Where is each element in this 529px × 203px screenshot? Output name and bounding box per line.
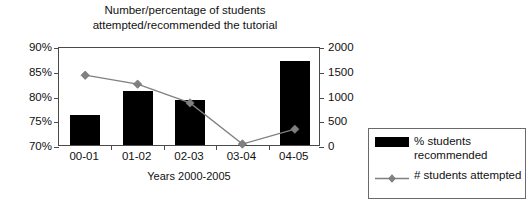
line-marker-04-05 — [291, 125, 299, 133]
chart-legend: % students recommended # students attemp… — [368, 128, 526, 199]
y-axis-left-tick-label: 85% — [6, 66, 52, 78]
legend-line-label: # students attempted — [414, 169, 521, 183]
legend-bar-swatch-icon — [375, 137, 409, 147]
y-axis-left-tick — [54, 98, 59, 99]
x-axis-tick — [216, 145, 217, 150]
x-axis-label-04-05: 04-05 — [279, 150, 308, 162]
y-axis-right-tick-label: 1000 — [328, 91, 372, 103]
y-axis-right-tick — [319, 48, 324, 49]
y-axis-right-tick-label: 1500 — [328, 66, 372, 78]
y-axis-left-tick — [54, 73, 59, 74]
y-axis-right-tick-label: 500 — [328, 115, 372, 127]
y-axis-right-tick-label: 0 — [328, 140, 372, 152]
y-axis-right-tick — [319, 147, 324, 148]
x-axis-label-00-01: 00-01 — [69, 150, 98, 162]
x-axis-label-02-03: 02-03 — [174, 150, 203, 162]
legend-line-diamond-icon — [375, 170, 409, 181]
legend-bar-label-line-1: % students — [414, 135, 471, 147]
y-axis-left-tick-label: 75% — [6, 115, 52, 127]
y-axis-left-tick-label: 90% — [6, 41, 52, 53]
y-axis-left-tick-label: 70% — [6, 140, 52, 152]
x-axis-label-03-04: 03-04 — [227, 150, 256, 162]
x-axis-label-01-02: 01-02 — [122, 150, 151, 162]
y-axis-left-tick — [54, 122, 59, 123]
y-axis-left-tick — [54, 147, 59, 148]
chart-container: Number/percentage of students attempted/… — [0, 0, 529, 203]
legend-item-bar: % students recommended — [375, 135, 488, 162]
legend-item-line: # students attempted — [375, 169, 521, 183]
y-axis-right-tick — [319, 73, 324, 74]
legend-bar-label: % students recommended — [414, 135, 488, 162]
y-axis-left-tick — [54, 48, 59, 49]
y-axis-right-tick — [319, 98, 324, 99]
chart-title-line-2: attempted/recommended the tutorial — [60, 18, 310, 33]
line-marker-01-02 — [133, 80, 141, 88]
legend-bar-label-line-2: recommended — [414, 149, 488, 163]
chart-title-line-1: Number/percentage of students — [60, 3, 310, 18]
y-axis-left: 70%75%80%85%90% — [6, 0, 52, 203]
y-axis-right-tick-label: 2000 — [328, 41, 372, 53]
x-axis-tick — [111, 145, 112, 150]
plot-area — [58, 47, 320, 146]
x-axis-title: Years 2000-2005 — [58, 170, 320, 182]
line-path — [85, 75, 295, 144]
y-axis-right-tick — [319, 122, 324, 123]
y-axis-left-tick-label: 80% — [6, 91, 52, 103]
chart-title: Number/percentage of students attempted/… — [60, 3, 310, 32]
x-axis-tick — [269, 145, 270, 150]
line-series-layer — [59, 48, 321, 147]
x-axis-tick — [164, 145, 165, 150]
line-marker-00-01 — [81, 71, 89, 79]
